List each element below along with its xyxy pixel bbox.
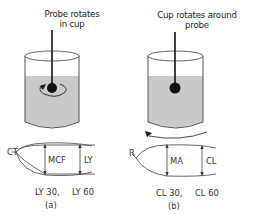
panel-a-footer-left: LY 30, [35,187,60,197]
panel-b-footer-left: CL 30, [156,188,183,198]
panel-a-mcf-label: MCF [48,155,66,165]
panel-a-ly-label: LY [84,155,94,165]
panel-b-rotation-arrow-icon [145,131,207,138]
panel-b-r-label: R [129,148,135,158]
panel-a-footer-right: LY 60 [72,187,94,197]
panel-b-cl-arrow-icon [200,145,203,176]
panel-b-ma-arrow-icon [165,144,168,176]
thromboelastography-diagram: CT MCF LY R MA CL [0,0,254,218]
panel-b-caption: (b) [168,201,180,211]
panel-b-probe-bob [170,83,181,94]
panel-b-ma-label: MA [170,156,183,166]
panel-a-ct-label: CT [7,147,19,157]
panel-a-ly-arrow-icon [78,144,81,175]
panel-b-footer-right: CL 60 [195,188,219,198]
panel-b-cl-label: CL [206,156,217,166]
panel-a-caption: (a) [45,200,57,210]
panel-a-probe-bob [47,83,57,93]
panel-a-mcf-arrow-icon [43,144,46,175]
